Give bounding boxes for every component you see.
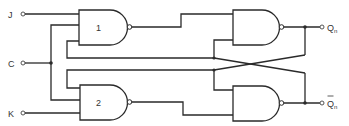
nand-gate-4 (233, 86, 284, 121)
feedback-wires (67, 41, 214, 88)
input-j-terminal (21, 12, 25, 16)
junction-left-lower (212, 68, 215, 71)
gate-1-label: 1 (96, 23, 101, 33)
inter-gate-wires (132, 14, 233, 115)
input-j-label: J (8, 10, 13, 20)
nand-gate-2: 2 (80, 85, 132, 120)
jk-flip-flop-diagram: J C K 1 2 (0, 0, 349, 126)
input-k-terminal (21, 111, 25, 115)
input-k: K (8, 109, 25, 119)
output-qn-label: Qn (327, 23, 337, 34)
input-k-label: K (8, 109, 14, 119)
input-c-terminal (21, 61, 25, 65)
input-c: C (8, 59, 25, 69)
junction-left-upper (212, 56, 215, 59)
nand-gate-3 (233, 10, 284, 45)
output-qn-bar: Qn (284, 96, 337, 110)
clock-junction (49, 61, 53, 65)
nand-gate-1: 1 (79, 10, 132, 45)
output-qn-bar-label: Qn (327, 99, 337, 110)
output-qn: Qn (284, 23, 337, 34)
gate-2-label: 2 (96, 98, 101, 108)
input-c-label: C (8, 59, 15, 69)
input-j: J (8, 10, 25, 20)
